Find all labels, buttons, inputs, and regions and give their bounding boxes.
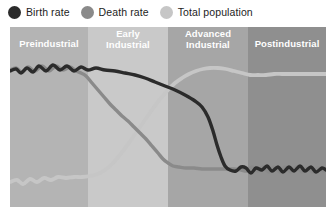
demographic-transition-chart: Birth rateDeath rateTotal population Pre… (0, 0, 335, 217)
curve-layer (10, 27, 326, 207)
plot-area: PreindustrialEarlyIndustrialAdvancedIndu… (10, 27, 326, 207)
legend-item: Total population (160, 6, 253, 19)
series-line (10, 66, 326, 172)
circle-marker-icon (81, 6, 94, 19)
chart-legend: Birth rateDeath rateTotal population (8, 2, 264, 22)
legend-label: Total population (178, 6, 253, 18)
legend-item: Birth rate (8, 6, 70, 19)
series-line (10, 65, 326, 173)
circle-marker-icon (8, 6, 21, 19)
circle-marker-icon (160, 6, 173, 19)
legend-label: Death rate (99, 6, 149, 18)
legend-label: Birth rate (26, 6, 70, 18)
legend-item: Death rate (81, 6, 149, 19)
